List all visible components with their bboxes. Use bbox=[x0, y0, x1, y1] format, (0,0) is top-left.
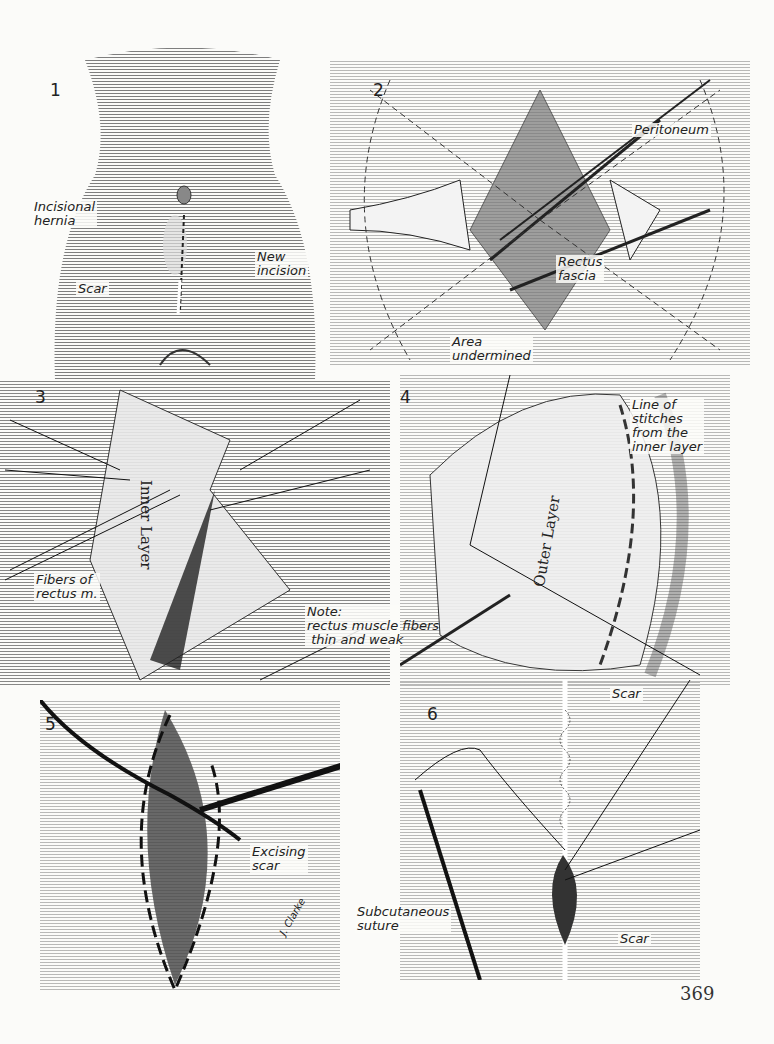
label-peritoneum: Peritoneum bbox=[632, 123, 711, 137]
incision-illustration bbox=[330, 60, 750, 365]
label-line-of-stitches: Line of stitches from the inner layer bbox=[630, 398, 704, 454]
label-fibers-of-rectus: Fibers of rectus m. bbox=[34, 573, 100, 601]
figure-6-number: 6 bbox=[427, 704, 438, 724]
figure-5-number: 5 bbox=[45, 714, 56, 734]
figure-3-number: 3 bbox=[35, 387, 46, 407]
figure-2-number: 2 bbox=[373, 80, 384, 100]
label-new-incision: New incision bbox=[255, 250, 308, 278]
label-scar-fig1: Scar bbox=[76, 282, 109, 296]
figure-1-number: 1 bbox=[50, 80, 61, 100]
label-inner-layer: Inner Layer bbox=[137, 480, 155, 570]
figure-6-subcutaneous-suture bbox=[400, 680, 700, 980]
label-area-undermined: Area undermined bbox=[450, 335, 533, 363]
page-number: 369 bbox=[680, 983, 714, 1004]
label-excising-scar: Excising scar bbox=[250, 845, 308, 873]
label-incisional-hernia: Incisional hernia bbox=[32, 200, 97, 228]
figure-4-number: 4 bbox=[400, 387, 411, 407]
figure-2-incision bbox=[330, 60, 750, 365]
label-subcutaneous-suture: Subcutaneous suture bbox=[355, 905, 451, 933]
label-rectus-fascia: Rectus fascia bbox=[556, 255, 604, 283]
label-scar-bottom: Scar bbox=[618, 932, 651, 946]
suture-illustration bbox=[400, 680, 700, 980]
label-scar-top: Scar bbox=[610, 687, 643, 701]
